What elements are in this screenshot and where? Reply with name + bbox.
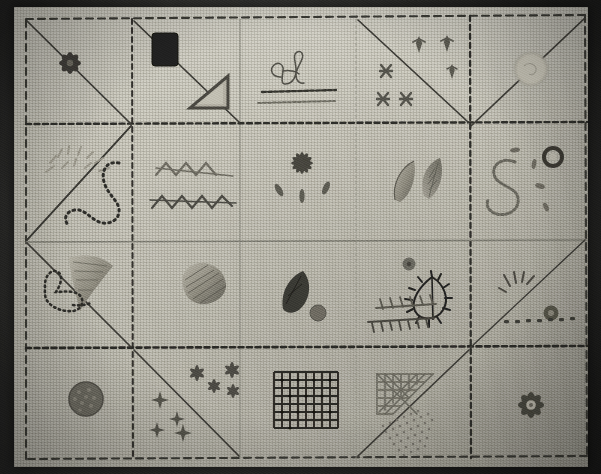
- motif-beaded-curve: [66, 163, 119, 225]
- diagonal-r2c1: [27, 21, 131, 124]
- motif-french-knot-disc: [69, 382, 103, 416]
- motif-two-leaves: [394, 158, 442, 202]
- motif-sun-rays: [46, 146, 109, 172]
- grid-line-h2: [26, 240, 587, 242]
- motif-small-knot-dot: [403, 258, 416, 271]
- herringbone-row-1: [156, 163, 233, 176]
- motif-dark-leaf-and-dot: [282, 271, 326, 321]
- diagonal-r3c5: [471, 240, 585, 347]
- diagonal-r4c2: [134, 350, 239, 456]
- sampler-photo: [0, 0, 601, 474]
- motif-lattice-grid-square: [274, 372, 338, 430]
- motif-letter-S-chain: [487, 160, 518, 214]
- motif-eight-petal-flower: [518, 392, 544, 418]
- motif-eight-petal-rosette: [59, 52, 81, 74]
- motif-pale-circle-disc: [515, 53, 547, 85]
- herringbone-row-2: [150, 196, 236, 208]
- motif-star-sprays: [189, 362, 240, 398]
- motif-feather-stitch-rows: [368, 295, 436, 332]
- motif-diaper-triangle: [377, 374, 433, 414]
- motif-cross-stitch-marks: [377, 65, 412, 105]
- grid-line-v4: [470, 16, 471, 458]
- motif-herringbone-rows: [150, 163, 236, 208]
- motif-filled-square-block: [152, 33, 178, 66]
- motif-star-with-leaves: [273, 152, 332, 203]
- motif-arrow-sprigs: [413, 35, 457, 79]
- grid-line-h1: [26, 122, 587, 124]
- motif-seed-stitch-triangle: [382, 410, 434, 457]
- motif-four-point-crosses: [149, 391, 192, 442]
- motif-shaded-leaf: [69, 255, 113, 311]
- grid-vertical-lines: [132, 16, 471, 458]
- embroidery-stitches: [0, 0, 601, 474]
- motif-ray-burst: [499, 272, 534, 292]
- motif-seed-dash-row: [504, 317, 575, 323]
- motif-script-letter-B: [272, 51, 304, 84]
- grid-line-v1: [132, 19, 133, 458]
- diagonal-center-left: [27, 126, 131, 240]
- motif-fan-shell: [182, 263, 226, 304]
- motif-eyelet-ring: [544, 148, 562, 166]
- motif-stitched-rule-lines: [258, 90, 336, 103]
- grid-line-h3: [26, 346, 587, 348]
- feather-row-1: [376, 295, 436, 309]
- feather-row-2: [368, 318, 434, 332]
- diagonal-r4c4: [358, 350, 469, 456]
